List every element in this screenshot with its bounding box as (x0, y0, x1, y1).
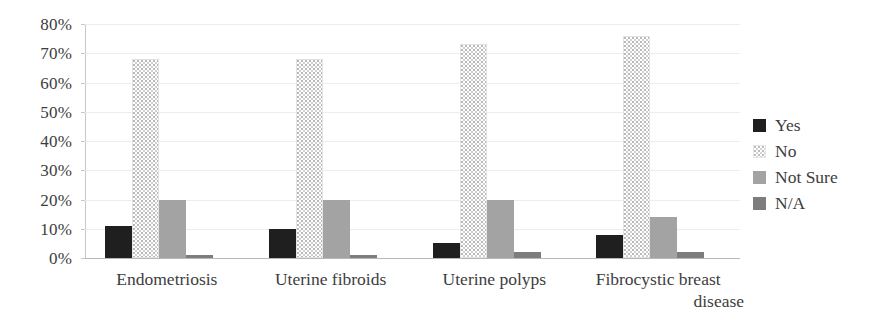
bar-chart: 80%70%60%50%40%30%20%10%0% Endometriosis… (0, 0, 895, 335)
bar-group (433, 24, 541, 258)
y-tick-mark (81, 83, 85, 84)
bar-not-sure (650, 217, 677, 258)
bar-no (623, 36, 650, 258)
x-axis-category-label-line: Endometriosis (116, 269, 217, 289)
legend-item[interactable]: N/A (753, 190, 893, 216)
y-tick-label: 60% (40, 75, 72, 92)
x-axis-category-label-line: disease (568, 290, 748, 312)
bar-no (296, 59, 323, 258)
bar-not-sure (487, 200, 514, 259)
bar-group (105, 24, 213, 258)
bar-n-a (677, 252, 704, 258)
y-tick-label: 40% (40, 133, 72, 150)
legend-swatch-icon (753, 145, 766, 158)
y-tick-mark (81, 24, 85, 25)
x-axis-category-label: Uterine polyps (405, 268, 585, 290)
y-tick-label: 80% (40, 16, 72, 33)
x-axis-category-label-line: Uterine fibroids (275, 269, 386, 289)
legend-swatch-icon (753, 119, 766, 132)
y-tick-mark (81, 170, 85, 171)
y-axis-tick-labels: 80%70%60%50%40%30%20%10%0% (0, 12, 78, 262)
x-axis-category-label: Endometriosis (77, 268, 257, 290)
y-tick-label: 0% (49, 250, 72, 267)
bar-no (460, 44, 487, 258)
legend-item[interactable]: Not Sure (753, 164, 893, 190)
bar-not-sure (323, 200, 350, 259)
y-tick-mark (81, 53, 85, 54)
legend-item[interactable]: Yes (753, 112, 893, 138)
bar-group (596, 24, 704, 258)
bar-yes (596, 235, 623, 258)
bar-group (269, 24, 377, 258)
y-tick-label: 30% (40, 162, 72, 179)
x-axis-category-label-line: Uterine polyps (443, 269, 547, 289)
y-tick-label: 10% (40, 221, 72, 238)
x-axis-category-labels: EndometriosisUterine fibroidsUterine pol… (85, 268, 740, 328)
bar-yes (433, 243, 460, 258)
plot-area (85, 24, 740, 258)
x-axis-line (85, 258, 740, 259)
legend-swatch-icon (753, 197, 766, 210)
y-tick-label: 50% (40, 104, 72, 121)
bar-yes (105, 226, 132, 258)
y-tick-mark (81, 258, 85, 259)
legend-label: N/A (775, 194, 805, 212)
y-tick-mark (81, 112, 85, 113)
legend-label: Yes (775, 116, 800, 134)
legend-label: No (775, 142, 796, 160)
x-axis-category-label-line: Fibrocystic breast (596, 269, 721, 289)
bar-not-sure (159, 200, 186, 259)
y-tick-mark (81, 229, 85, 230)
legend-item[interactable]: No (753, 138, 893, 164)
x-axis-category-label: Uterine fibroids (241, 268, 421, 290)
legend-swatch-icon (753, 171, 766, 184)
y-tick-label: 20% (40, 192, 72, 209)
y-tick-mark (81, 141, 85, 142)
bar-yes (269, 229, 296, 258)
bar-no (132, 59, 159, 258)
x-axis-category-label: Fibrocystic breastdisease (568, 268, 748, 312)
y-tick-mark (81, 200, 85, 201)
bar-n-a (514, 252, 541, 258)
legend-label: Not Sure (775, 168, 838, 186)
bar-n-a (350, 255, 377, 258)
chart-legend: YesNoNot SureN/A (753, 112, 893, 216)
bar-n-a (186, 255, 213, 258)
y-tick-label: 70% (40, 45, 72, 62)
